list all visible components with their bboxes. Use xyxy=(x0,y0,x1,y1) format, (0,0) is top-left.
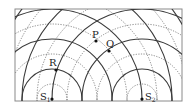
diagram-frame xyxy=(15,9,182,101)
point-r-label: R xyxy=(49,57,57,68)
point-r-dot xyxy=(54,68,57,71)
point-q-dot xyxy=(107,49,110,52)
interference-diagram: S1S2PQR xyxy=(0,0,192,112)
source-s2-dot xyxy=(140,97,143,100)
point-q-label: Q xyxy=(106,38,114,49)
point-p-label: P xyxy=(92,29,99,40)
source-s1-dot xyxy=(50,97,53,100)
